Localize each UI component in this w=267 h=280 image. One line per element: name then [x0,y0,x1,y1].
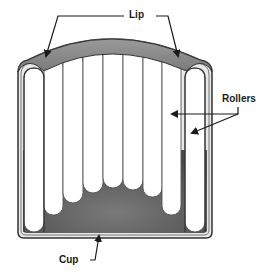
lip-label: Lip [129,9,144,20]
cup-label: Cup [59,254,78,265]
roller [83,47,103,193]
rollers-label: Rollers [222,93,256,104]
roller [44,58,63,215]
roller [103,44,123,188]
roller [185,68,205,232]
roller [143,47,162,197]
cup-callout [90,236,99,260]
roller [123,44,143,190]
roller [63,52,83,203]
roller-cup-diagram [0,0,267,280]
roller [162,52,181,215]
roller [24,68,44,232]
